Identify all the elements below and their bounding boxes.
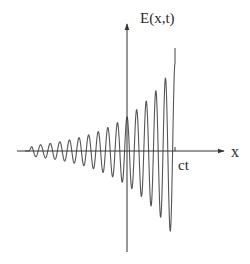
wave-curve (25, 48, 175, 231)
wave-diagram: E(x,t) x ct (0, 0, 250, 264)
front-label-ct: ct (178, 157, 190, 173)
x-axis-label: x (231, 143, 239, 160)
y-axis-label: E(x,t) (140, 10, 175, 27)
